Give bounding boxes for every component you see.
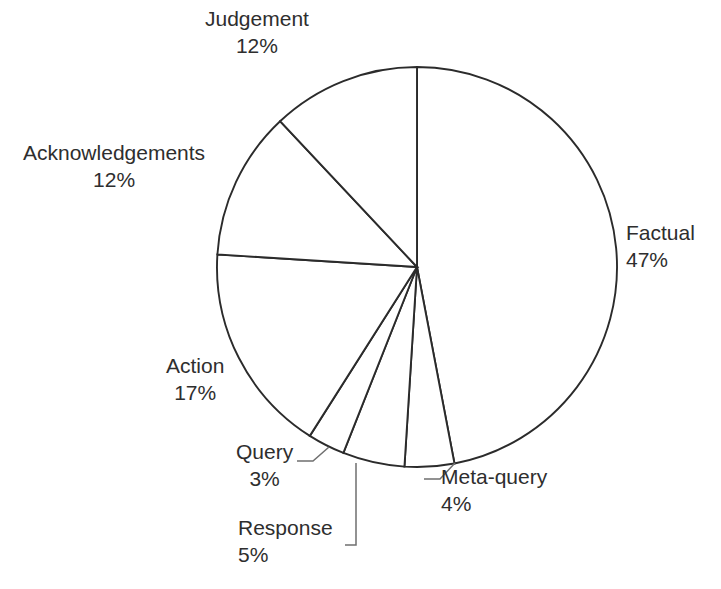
slice-label-meta-query-name: Meta-query (441, 463, 547, 490)
slice-label-action: Action 17% (166, 352, 224, 406)
slice-label-action-percent: 17% (166, 379, 224, 406)
slice-label-response: Response 5% (238, 514, 333, 568)
slice-label-judgement-percent: 12% (205, 32, 309, 59)
slice-label-query-name: Query (236, 438, 293, 465)
slice-label-response-percent: 5% (238, 541, 333, 568)
slice-label-acknowledgements: Acknowledgements 12% (23, 139, 205, 193)
slice-label-factual-percent: 47% (626, 246, 695, 273)
slice-label-query-percent: 3% (236, 465, 293, 492)
slice-label-meta-query: Meta-query 4% (441, 463, 547, 517)
slice-label-judgement-name: Judgement (205, 5, 309, 32)
pie-chart-figure: Factual 47% Meta-query 4% Response 5% Qu… (0, 0, 721, 589)
slice-label-factual-name: Factual (626, 219, 695, 246)
leader-line-query (297, 447, 329, 461)
leader-line-response (345, 463, 356, 545)
slice-label-query: Query 3% (236, 438, 293, 492)
slice-label-factual: Factual 47% (626, 219, 695, 273)
pie-slice-factual (417, 67, 617, 463)
slice-label-acknowledgements-name: Acknowledgements (23, 139, 205, 166)
slice-label-meta-query-percent: 4% (441, 490, 547, 517)
slice-label-response-name: Response (238, 514, 333, 541)
slice-label-acknowledgements-percent: 12% (23, 166, 205, 193)
slice-label-action-name: Action (166, 352, 224, 379)
pie-slices-group (217, 67, 617, 467)
pie-chart-canvas (0, 0, 721, 589)
slice-label-judgement: Judgement 12% (205, 5, 309, 59)
